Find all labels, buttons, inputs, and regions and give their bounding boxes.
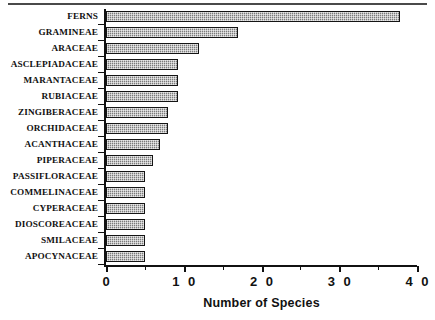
bar bbox=[106, 139, 160, 150]
x-axis-major-tick bbox=[262, 266, 264, 272]
x-axis-major-tick bbox=[184, 266, 186, 272]
x-axis-major-tick bbox=[339, 266, 341, 272]
bar-row: ZINGIBERACEAE bbox=[0, 105, 435, 121]
bar bbox=[106, 235, 145, 246]
bar-row: ACANTHACEAE bbox=[0, 137, 435, 153]
bar-category-label: SMILACEAE bbox=[0, 234, 98, 247]
bar bbox=[106, 251, 145, 262]
bar bbox=[106, 59, 178, 70]
bar-container bbox=[106, 139, 160, 150]
bar-category-label: COMMELINACEAE bbox=[0, 186, 98, 199]
bar-rows: FERNSGRAMINEAEARACEAEASCLEPIADACEAEMARAN… bbox=[0, 9, 435, 265]
bar-category-label: RUBIACEAE bbox=[0, 90, 98, 103]
bar bbox=[106, 91, 178, 102]
bar-row: PIPERACEAE bbox=[0, 153, 435, 169]
bar bbox=[106, 203, 145, 214]
bar-row: GRAMINEAE bbox=[0, 25, 435, 41]
bar-container bbox=[106, 27, 238, 38]
x-axis-tick-label: 0 bbox=[86, 274, 126, 289]
bar bbox=[106, 75, 178, 86]
bar-row: MARANTACEAE bbox=[0, 73, 435, 89]
x-axis-minor-tick bbox=[145, 266, 146, 270]
bar-row: CYPERACEAE bbox=[0, 201, 435, 217]
bar-category-label: ORCHIDACEAE bbox=[0, 122, 98, 135]
bar bbox=[106, 27, 238, 38]
bar-container bbox=[106, 91, 178, 102]
bar-row: SMILACEAE bbox=[0, 233, 435, 249]
bar-row: RUBIACEAE bbox=[0, 89, 435, 105]
bar bbox=[106, 11, 400, 22]
x-axis-tick-label: 1 0 bbox=[164, 274, 204, 289]
x-axis-tick-label: 2 0 bbox=[242, 274, 282, 289]
bar-container bbox=[106, 219, 145, 230]
bar-container bbox=[106, 235, 145, 246]
bar-container bbox=[106, 187, 145, 198]
bar-category-label: ZINGIBERACEAE bbox=[0, 106, 98, 119]
bar-container bbox=[106, 107, 168, 118]
y-axis-tick bbox=[98, 264, 105, 265]
x-axis-tick-label: 4 0 bbox=[397, 274, 435, 289]
bar-container bbox=[106, 171, 145, 182]
x-axis-minor-tick bbox=[300, 266, 301, 270]
x-axis-line bbox=[104, 265, 417, 267]
bar-category-label: ARACEAE bbox=[0, 42, 98, 55]
x-axis-minor-tick bbox=[378, 266, 379, 270]
bar-container bbox=[106, 203, 145, 214]
bar-chart: FERNSGRAMINEAEARACEAEASCLEPIADACEAEMARAN… bbox=[0, 0, 435, 320]
bar-category-label: ASCLEPIADACEAE bbox=[0, 58, 98, 71]
bar-container bbox=[106, 123, 168, 134]
bar-row: ASCLEPIADACEAE bbox=[0, 57, 435, 73]
bar bbox=[106, 219, 145, 230]
bar-container bbox=[106, 155, 153, 166]
bar-category-label: ACANTHACEAE bbox=[0, 138, 98, 151]
bar-row: APOCYNACEAE bbox=[0, 249, 435, 265]
bar-container bbox=[106, 75, 178, 86]
bar-category-label: APOCYNACEAE bbox=[0, 250, 98, 263]
bar-category-label: PIPERACEAE bbox=[0, 154, 98, 167]
bar bbox=[106, 43, 199, 54]
bar-row: COMMELINACEAE bbox=[0, 185, 435, 201]
x-axis-tick-label: 3 0 bbox=[319, 274, 359, 289]
bar-category-label: FERNS bbox=[0, 10, 98, 23]
bar-row: PASSIFLORACEAE bbox=[0, 169, 435, 185]
bar-row: DIOSCOREACEAE bbox=[0, 217, 435, 233]
bar bbox=[106, 155, 153, 166]
bar-category-label: MARANTACEAE bbox=[0, 74, 98, 87]
bar bbox=[106, 123, 168, 134]
bar-category-label: CYPERACEAE bbox=[0, 202, 98, 215]
bar-container bbox=[106, 59, 178, 70]
x-axis-major-tick bbox=[106, 266, 108, 272]
x-axis-major-tick bbox=[417, 266, 419, 272]
x-axis-minor-tick bbox=[223, 266, 224, 270]
x-axis-title: Number of Species bbox=[105, 296, 418, 310]
bar-category-label: PASSIFLORACEAE bbox=[0, 170, 98, 183]
bar bbox=[106, 187, 145, 198]
bar-row: FERNS bbox=[0, 9, 435, 25]
bar-container bbox=[106, 251, 145, 262]
bar-row: ARACEAE bbox=[0, 41, 435, 57]
bar-container bbox=[106, 43, 199, 54]
bar bbox=[106, 107, 168, 118]
bar-row: ORCHIDACEAE bbox=[0, 121, 435, 137]
bar bbox=[106, 171, 145, 182]
bar-category-label: GRAMINEAE bbox=[0, 26, 98, 39]
bar-container bbox=[106, 11, 400, 22]
bar-category-label: DIOSCOREACEAE bbox=[0, 218, 98, 231]
